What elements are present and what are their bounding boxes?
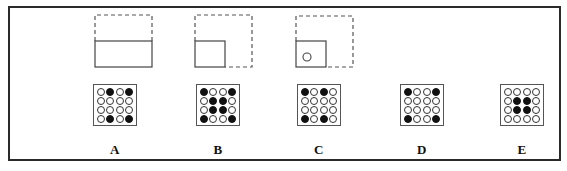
filled-hole-icon: [320, 115, 328, 123]
empty-hole-icon: [329, 115, 337, 123]
option-d[interactable]: D: [398, 84, 446, 158]
filled-hole-icon: [432, 88, 440, 96]
empty-hole-icon: [413, 115, 421, 123]
empty-hole-icon: [320, 106, 328, 114]
empty-hole-icon: [310, 106, 318, 114]
empty-hole-icon: [504, 106, 512, 114]
filled-hole-icon: [125, 115, 133, 123]
option-grid: [297, 84, 341, 126]
filled-hole-icon: [523, 106, 531, 114]
empty-hole-icon: [200, 97, 208, 105]
empty-hole-icon: [97, 88, 105, 96]
fold-step-1: [94, 14, 154, 69]
filled-hole-icon: [301, 115, 309, 123]
empty-hole-icon: [504, 97, 512, 105]
empty-hole-icon: [209, 88, 217, 96]
empty-hole-icon: [301, 97, 309, 105]
empty-hole-icon: [97, 97, 105, 105]
filled-hole-icon: [513, 106, 521, 114]
filled-hole-icon: [301, 88, 309, 96]
empty-hole-icon: [513, 115, 521, 123]
empty-hole-icon: [106, 97, 114, 105]
empty-hole-icon: [310, 97, 318, 105]
filled-hole-icon: [320, 88, 328, 96]
filled-hole-icon: [228, 88, 236, 96]
empty-hole-icon: [532, 97, 540, 105]
empty-hole-icon: [200, 106, 208, 114]
empty-hole-icon: [423, 88, 431, 96]
filled-hole-icon: [432, 115, 440, 123]
empty-hole-icon: [219, 88, 227, 96]
filled-hole-icon: [513, 97, 521, 105]
empty-hole-icon: [413, 97, 421, 105]
empty-hole-icon: [329, 88, 337, 96]
filled-hole-icon: [125, 88, 133, 96]
punch-hole-icon: [303, 53, 311, 61]
option-label: B: [194, 142, 242, 158]
empty-hole-icon: [209, 115, 217, 123]
option-c[interactable]: C: [295, 84, 343, 158]
option-e[interactable]: E: [498, 84, 546, 158]
empty-hole-icon: [301, 106, 309, 114]
option-grid: [196, 84, 240, 126]
filled-hole-icon: [200, 115, 208, 123]
filled-hole-icon: [106, 88, 114, 96]
empty-hole-icon: [97, 106, 105, 114]
empty-hole-icon: [432, 97, 440, 105]
filled-hole-icon: [219, 97, 227, 105]
empty-hole-icon: [423, 106, 431, 114]
filled-hole-icon: [228, 115, 236, 123]
empty-hole-icon: [320, 97, 328, 105]
filled-hole-icon: [404, 88, 412, 96]
filled-hole-icon: [219, 106, 227, 114]
empty-hole-icon: [413, 88, 421, 96]
empty-hole-icon: [404, 106, 412, 114]
empty-hole-icon: [413, 106, 421, 114]
empty-hole-icon: [504, 115, 512, 123]
empty-hole-icon: [532, 88, 540, 96]
empty-hole-icon: [404, 97, 412, 105]
empty-hole-icon: [432, 106, 440, 114]
empty-hole-icon: [532, 106, 540, 114]
empty-hole-icon: [116, 115, 124, 123]
empty-hole-icon: [106, 106, 114, 114]
empty-hole-icon: [310, 115, 318, 123]
empty-hole-icon: [329, 106, 337, 114]
filled-hole-icon: [523, 97, 531, 105]
empty-hole-icon: [504, 88, 512, 96]
fold-step-2: [194, 14, 254, 69]
option-label: E: [498, 142, 546, 158]
fold-step-3: [295, 15, 355, 70]
option-label: A: [91, 142, 139, 158]
filled-hole-icon: [200, 88, 208, 96]
empty-hole-icon: [228, 106, 236, 114]
empty-hole-icon: [532, 115, 540, 123]
empty-hole-icon: [523, 115, 531, 123]
option-label: C: [295, 142, 343, 158]
option-grid: [500, 84, 544, 126]
empty-hole-icon: [97, 115, 105, 123]
empty-hole-icon: [228, 97, 236, 105]
empty-hole-icon: [513, 88, 521, 96]
empty-hole-icon: [310, 88, 318, 96]
empty-hole-icon: [329, 97, 337, 105]
empty-hole-icon: [523, 88, 531, 96]
empty-hole-icon: [125, 106, 133, 114]
filled-hole-icon: [404, 115, 412, 123]
option-label: D: [398, 142, 446, 158]
option-a[interactable]: A: [91, 84, 139, 158]
option-grid: [400, 84, 444, 126]
filled-hole-icon: [106, 115, 114, 123]
filled-hole-icon: [209, 97, 217, 105]
option-b[interactable]: B: [194, 84, 242, 158]
empty-hole-icon: [116, 97, 124, 105]
option-grid: [93, 84, 137, 126]
empty-hole-icon: [423, 115, 431, 123]
empty-hole-icon: [116, 88, 124, 96]
empty-hole-icon: [116, 106, 124, 114]
empty-hole-icon: [219, 115, 227, 123]
empty-hole-icon: [423, 97, 431, 105]
empty-hole-icon: [125, 97, 133, 105]
filled-hole-icon: [209, 106, 217, 114]
